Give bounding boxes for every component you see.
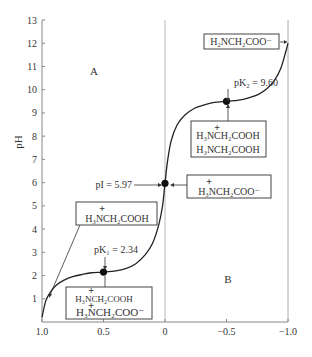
x-tick-label: −1.0 — [279, 326, 297, 337]
pk1-mixture-line2: H₃NCH₂COO⁻ — [76, 306, 144, 318]
annotation-pk1: pK₁ = 2.34 + H₃NCH₂COOH + H₃NCH₂COO⁻ — [66, 244, 152, 319]
y-tick-label: 1 — [32, 293, 37, 304]
pi-label: pI = 5.97 — [96, 179, 132, 190]
x-tick-label: 0 — [163, 326, 168, 337]
key-point-pi — [161, 180, 168, 187]
arrow-head-icon — [170, 183, 174, 187]
pk2-mixture-line2: H₃NCH₂COOH — [196, 144, 260, 155]
anion-text: H₂NCH₂COO⁻ — [210, 36, 272, 47]
y-axis-title: pH — [12, 135, 24, 149]
y-tick-label: 12 — [27, 38, 37, 49]
y-tick-label: 3 — [32, 247, 37, 258]
y-tick-label: 5 — [32, 200, 37, 211]
x-tick-label: 1.0 — [36, 326, 49, 337]
y-tick-label: 4 — [32, 224, 37, 235]
y-tick-label: 2 — [32, 270, 37, 281]
zwitterion-text: H₃NCH₂COO⁻ — [198, 186, 260, 197]
annotation-pi: pI = 5.97 + H₃NCH₂COO⁻ — [96, 175, 271, 198]
y-tick-label: 13 — [27, 15, 37, 26]
arrow-head-icon — [284, 40, 287, 44]
x-tick-label: 0.5 — [97, 326, 110, 337]
y-tick-label: 6 — [32, 177, 37, 188]
pk2-mixture-line1: H₃NCH₂COOH — [196, 130, 260, 141]
y-tick-label: 9 — [32, 107, 37, 118]
region-label-a: A — [90, 65, 98, 77]
region-label-b: B — [224, 273, 231, 285]
y-tick-label: 10 — [27, 84, 37, 95]
x-tick-label: −0.5 — [217, 326, 235, 337]
y-tick-label: 11 — [27, 61, 37, 72]
fully-protonated-text: H₃NCH₂COOH — [85, 213, 149, 224]
arrow-head-icon — [49, 293, 52, 298]
titration-chart: 123456789101112131.00.50−0.5−1.0 A B pH … — [0, 0, 312, 357]
y-tick-label: 8 — [32, 131, 37, 142]
pk1-mixture-line1: H₃NCH₂COOH — [75, 294, 133, 304]
y-tick-label: 7 — [32, 154, 37, 165]
annotation-pk2: pK₂ = 9.60 + H₃NCH₂COOH H₃NCH₂COOH — [191, 77, 278, 157]
fully-protonated-arrow — [50, 225, 80, 295]
pk1-label: pK₁ = 2.34 — [94, 244, 138, 255]
pk2-label: pK₂ = 9.60 — [234, 77, 278, 88]
annotation-anion: H₂NCH₂COO⁻ — [204, 34, 287, 49]
key-point-pk1 — [100, 268, 107, 275]
arrow-head-icon — [158, 183, 162, 187]
